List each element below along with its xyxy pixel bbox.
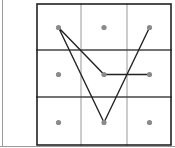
pattern-dot-0-1[interactable] bbox=[101, 25, 106, 30]
pattern-dot-1-1[interactable] bbox=[101, 72, 106, 77]
pattern-dot-2-1[interactable] bbox=[101, 120, 106, 125]
pattern-canvas[interactable] bbox=[36, 3, 172, 146]
bottom-divider bbox=[0, 146, 175, 147]
pattern-dot-2-2[interactable] bbox=[147, 120, 152, 125]
pattern-dot-2-0[interactable] bbox=[56, 120, 61, 125]
pattern-dot-1-2[interactable] bbox=[147, 72, 152, 77]
pattern-lock-grid[interactable] bbox=[36, 3, 172, 146]
pattern-dot-0-0[interactable] bbox=[56, 25, 61, 30]
left-divider bbox=[2, 0, 3, 146]
pattern-dot-0-2[interactable] bbox=[147, 25, 152, 30]
pattern-dot-1-0[interactable] bbox=[56, 72, 61, 77]
